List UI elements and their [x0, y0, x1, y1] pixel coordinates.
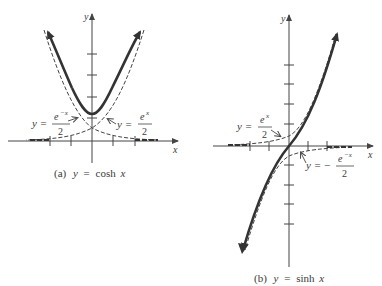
svg-text:e: e [338, 153, 343, 164]
panel-a-cosh: y x y = e −x 2 [8, 11, 178, 180]
svg-text:2: 2 [142, 126, 147, 137]
curve-sinh [243, 34, 337, 250]
caption-a: (a) y = cosh x [54, 167, 126, 180]
annotation-e-neg-x: y = e −x 2 [31, 109, 77, 137]
svg-text:2: 2 [58, 126, 63, 137]
svg-text:2: 2 [342, 168, 347, 179]
svg-text:y =: y = [236, 120, 252, 132]
svg-text:y =: y = [116, 118, 132, 130]
svg-text:−x: −x [60, 109, 69, 117]
svg-text:x: x [265, 112, 270, 120]
panel-b-sinh: y x y = e x [213, 13, 373, 285]
annotation-e-x: y = e x 2 [236, 112, 280, 140]
svg-text:x: x [145, 109, 150, 117]
x-axis-label: x [172, 144, 178, 155]
curve-cosh-left-branch [48, 32, 72, 88]
svg-text:e: e [260, 114, 265, 125]
svg-text:−x: −x [344, 151, 353, 159]
svg-text:e: e [54, 111, 59, 122]
svg-text:y =: y = [31, 117, 47, 129]
caption-b: (b) y = sinh x [254, 272, 324, 285]
svg-text:2: 2 [262, 129, 267, 140]
annotation-e-x: y = e x 2 [108, 109, 152, 137]
y-axis-label: y [83, 11, 89, 22]
hyperbolic-functions-figure: y x y = e −x 2 [0, 0, 382, 286]
x-axis-label: x [367, 149, 373, 160]
y-axis-label: y [280, 13, 286, 24]
svg-text:e: e [140, 111, 145, 122]
curve-e-neg-x-over-2 [44, 30, 160, 140]
svg-text:y = −: y = − [305, 159, 331, 171]
curve-cosh [72, 32, 140, 114]
annotation-neg-e-neg-x: y = − e −x 2 [301, 151, 354, 179]
